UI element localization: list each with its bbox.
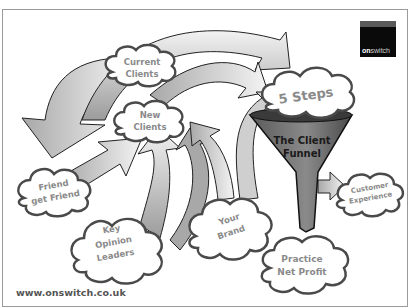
- logo-brand-light: switch: [371, 47, 390, 54]
- arrow-keyopinion-to-new: [138, 128, 180, 238]
- onswitch-logo: onswitch: [360, 21, 396, 57]
- cloud-label: Current: [124, 57, 161, 67]
- cloud-5-steps: 5 Steps: [262, 68, 354, 118]
- cloud-current-clients: Current Clients: [106, 45, 176, 86]
- funnel-label-1: The Client: [273, 135, 330, 146]
- cloud-label: Clients: [133, 122, 166, 132]
- cloud-practice-net-profit: Practice Net Profit: [262, 236, 348, 293]
- diagram-canvas: The Client Funnel Current Clients New Cl…: [0, 0, 416, 308]
- cloud-label: Net Profit: [277, 267, 327, 277]
- footer-url: www.onswitch.co.uk: [16, 287, 126, 298]
- funnel-label-2: Funnel: [283, 148, 321, 159]
- cloud-customer-experience: Customer Experience: [337, 174, 403, 217]
- cloud-label: Clients: [125, 69, 158, 79]
- cloud-new-clients: New Clients: [114, 101, 183, 142]
- cloud-label: Practice: [281, 254, 322, 264]
- logo-brand-bold: on: [362, 47, 371, 54]
- cloud-label: New: [140, 110, 161, 120]
